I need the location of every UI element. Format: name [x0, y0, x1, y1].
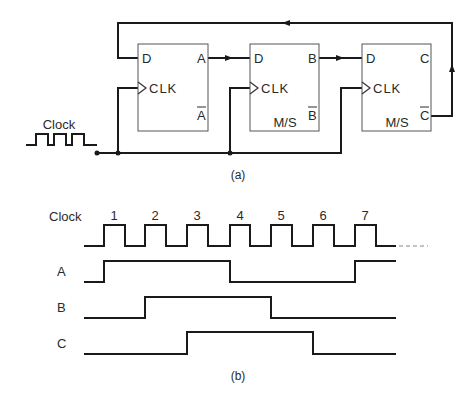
clk-wire-a	[118, 88, 138, 153]
signal-label-c: C	[57, 336, 66, 351]
caption-a: (a)	[231, 168, 246, 182]
pulse-number: 1	[110, 208, 117, 223]
q-output-label: A	[197, 51, 206, 66]
flip-flop-b: D CLK B B M/S	[250, 44, 319, 131]
master-slave-label: M/S	[385, 115, 408, 130]
signal-label-clock: Clock	[49, 209, 82, 224]
diagram-canvas: Clock D CLK A A D CLK B B M/S D CLK	[0, 0, 476, 402]
d-input-label: D	[142, 51, 151, 66]
d-input-label: D	[254, 51, 263, 66]
signal-c-waveform	[84, 332, 396, 354]
signal-label-b: B	[57, 300, 66, 315]
caption-b: (b)	[231, 369, 246, 383]
signal-a-waveform	[84, 261, 396, 282]
circuit-diagram: Clock D CLK A A D CLK B B M/S D CLK	[26, 20, 455, 182]
junction-dot	[228, 151, 233, 156]
clk-input-label: CLK	[261, 81, 289, 96]
junction-dot	[116, 151, 121, 156]
pulse-number: 3	[193, 208, 200, 223]
q-output-label: B	[308, 51, 317, 66]
timing-diagram: Clock A B C 1 2 3 4 5 6 7 (b)	[49, 208, 428, 383]
pulse-number: 6	[319, 208, 326, 223]
arrow-left-icon	[282, 20, 290, 26]
master-slave-label: M/S	[273, 115, 296, 130]
arrow-up-icon	[449, 64, 455, 72]
pulse-number: 7	[361, 208, 368, 223]
clk-input-label: CLK	[149, 81, 177, 96]
pulse-number: 2	[151, 208, 158, 223]
clk-input-label: CLK	[373, 81, 401, 96]
d-input-label: D	[366, 51, 375, 66]
q-output-label: C	[420, 51, 429, 66]
clock-input-label: Clock	[43, 117, 76, 132]
pulse-number: 4	[236, 208, 243, 223]
qbar-output-label: A	[197, 108, 206, 123]
arrow-right-icon	[225, 55, 233, 61]
signal-b-waveform	[84, 297, 396, 318]
clock-waveform	[84, 225, 396, 246]
arrow-right-icon	[336, 55, 344, 61]
clock-input-waveform-icon	[26, 134, 97, 145]
flip-flop-a: D CLK A A	[138, 44, 208, 131]
clk-wire-b	[230, 88, 250, 153]
qbar-output-label: B	[308, 108, 317, 123]
signal-label-a: A	[57, 264, 66, 279]
qbar-output-label: C	[420, 108, 429, 123]
flip-flop-c: D CLK C C M/S	[362, 44, 431, 131]
pulse-number: 5	[277, 208, 284, 223]
junction-dot	[95, 151, 100, 156]
